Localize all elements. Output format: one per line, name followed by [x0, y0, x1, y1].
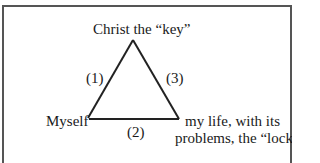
edge-right-label: (3) [166, 70, 184, 87]
node-left-label: Myself [46, 113, 89, 130]
node-right-label-line2: problems, the “lock” [175, 130, 292, 147]
edge-bottom-label: (2) [127, 124, 145, 141]
edge-left-label: (1) [86, 70, 104, 87]
node-right-label-line1: my life, with its [185, 113, 280, 130]
node-top-label: Christ the “key” [93, 21, 190, 38]
